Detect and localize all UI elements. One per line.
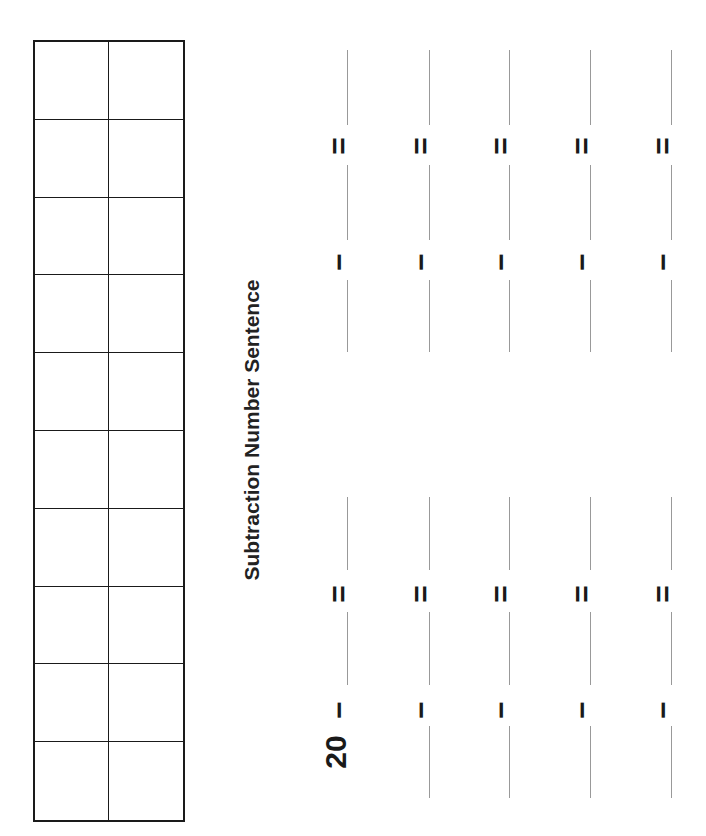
equals-sign: = [486, 137, 516, 155]
answer-blank[interactable] [347, 612, 348, 685]
answer-blank[interactable] [671, 280, 672, 352]
answer-blank[interactable] [509, 497, 510, 570]
answer-blank[interactable] [671, 726, 672, 798]
answer-blank[interactable] [590, 726, 591, 798]
answer-blank[interactable] [590, 50, 591, 125]
equals-sign: = [406, 585, 436, 603]
worksheet-title: Subtraction Number Sentence [240, 279, 264, 580]
ten-frame-cell [35, 431, 109, 509]
answer-blank[interactable] [347, 280, 348, 352]
equals-sign: = [567, 585, 597, 603]
ten-frame-cell [109, 587, 183, 665]
start-number: 20 [319, 735, 353, 768]
ten-frame-cell [109, 431, 183, 509]
minus-sign: − [406, 253, 436, 271]
answer-blank[interactable] [509, 165, 510, 240]
ten-frame-grid [33, 40, 185, 822]
minus-sign: − [567, 701, 597, 719]
answer-blank[interactable] [429, 165, 430, 240]
minus-sign: − [406, 701, 436, 719]
answer-blank[interactable] [509, 280, 510, 352]
answer-blank[interactable] [590, 165, 591, 240]
answer-blank[interactable] [671, 165, 672, 240]
minus-sign: − [324, 253, 354, 271]
answer-blank[interactable] [590, 612, 591, 685]
equals-sign: = [324, 585, 354, 603]
minus-sign: − [486, 253, 516, 271]
equals-sign: = [406, 137, 436, 155]
minus-sign: − [567, 253, 597, 271]
ten-frame-cell [109, 120, 183, 198]
equals-sign: = [648, 137, 678, 155]
answer-blank[interactable] [347, 165, 348, 240]
minus-sign: − [486, 701, 516, 719]
answer-blank[interactable] [671, 497, 672, 570]
answer-blank[interactable] [347, 497, 348, 570]
ten-frame-cell [109, 42, 183, 120]
ten-frame-cell [109, 509, 183, 587]
ten-frame-cell [35, 198, 109, 276]
ten-frame-cell [35, 275, 109, 353]
answer-blank[interactable] [429, 280, 430, 352]
ten-frame-cell [35, 120, 109, 198]
minus-sign: − [648, 253, 678, 271]
ten-frame-cell [109, 664, 183, 742]
ten-frame-cell [35, 587, 109, 665]
minus-sign: − [324, 701, 354, 719]
minus-sign: − [648, 701, 678, 719]
answer-blank[interactable] [590, 280, 591, 352]
ten-frame-cell [109, 275, 183, 353]
answer-blank[interactable] [509, 612, 510, 685]
answer-blank[interactable] [509, 50, 510, 125]
equals-sign: = [486, 585, 516, 603]
answer-blank[interactable] [671, 50, 672, 125]
answer-blank[interactable] [429, 612, 430, 685]
ten-frame-cell [35, 509, 109, 587]
ten-frame-cell [109, 353, 183, 431]
ten-frame-cell [35, 664, 109, 742]
answer-blank[interactable] [429, 497, 430, 570]
ten-frame-cell [109, 742, 183, 820]
equals-sign: = [567, 137, 597, 155]
answer-blank[interactable] [347, 50, 348, 125]
answer-blank[interactable] [509, 726, 510, 798]
ten-frame-cell [35, 42, 109, 120]
answer-blank[interactable] [429, 726, 430, 798]
ten-frame-cell [35, 742, 109, 820]
equals-sign: = [324, 137, 354, 155]
equals-sign: = [648, 585, 678, 603]
answer-blank[interactable] [671, 612, 672, 685]
answer-blank[interactable] [429, 50, 430, 125]
ten-frame-cell [35, 353, 109, 431]
ten-frame-cell [109, 198, 183, 276]
answer-blank[interactable] [590, 497, 591, 570]
